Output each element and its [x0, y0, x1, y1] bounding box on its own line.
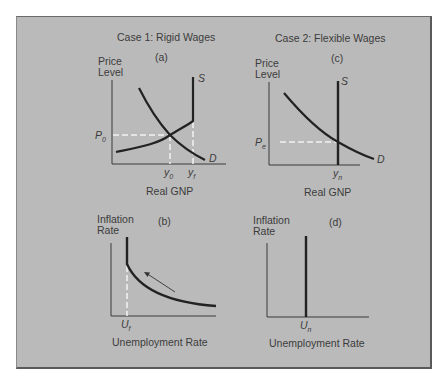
panel-c-yn-label: yn	[333, 168, 342, 183]
panel-b-label: (b)	[158, 216, 171, 227]
panel-c-label: (c)	[331, 53, 343, 64]
panel-d-graph	[267, 236, 369, 317]
panel-a-x-label: Real GNP	[146, 186, 193, 197]
diagram-graphics	[0, 0, 447, 380]
panel-b-phillips-curve	[127, 237, 216, 306]
case-2-title: Case 2: Flexible Wages	[275, 33, 386, 44]
panel-c-demand-curve	[284, 93, 374, 159]
panel-c-pe-label: Pe	[255, 137, 266, 152]
panel-c-graph	[269, 81, 374, 165]
panel-b-y-label-line2: Rate	[97, 225, 119, 236]
panel-d-label: (d)	[329, 217, 342, 228]
panel-a-d-label: D	[209, 153, 217, 164]
panel-a-label: (a)	[155, 52, 168, 63]
panel-b-x-label: Unemployment Rate	[112, 337, 208, 348]
panel-d-un-label: Un	[300, 320, 312, 335]
panel-c-s-label: S	[341, 76, 348, 87]
panel-a-p0-label: P0	[95, 130, 106, 145]
panel-a-yf-label: yf	[188, 167, 195, 182]
panel-a-s-label: S	[198, 73, 205, 84]
panel-a-graph	[112, 77, 226, 164]
panel-a-demand-curve	[139, 88, 205, 160]
panel-b-uf-label: Uf	[121, 319, 131, 334]
case-1-title: Case 1: Rigid Wages	[117, 32, 215, 43]
panel-c-d-label: D	[377, 154, 385, 165]
panel-d-x-label: Unemployment Rate	[269, 338, 365, 349]
panel-a-y-label-line2: Level	[98, 67, 123, 78]
panel-d-y-label-line2: Rate	[253, 226, 275, 237]
panel-b-graph	[111, 237, 216, 316]
panel-c-x-label: Real GNP	[304, 187, 351, 198]
panel-a-y0-label: y0	[164, 167, 173, 182]
panel-c-y-label-line2: Level	[255, 69, 280, 80]
